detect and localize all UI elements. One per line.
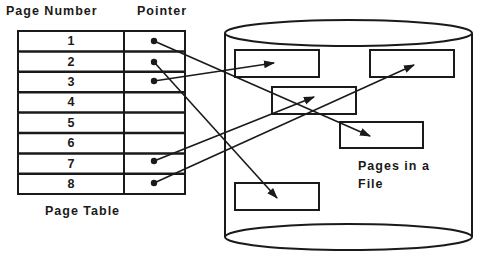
page-number-header: Page Number <box>6 4 98 18</box>
pointer-cell <box>124 51 185 71</box>
file-page-box <box>235 50 319 77</box>
pointer-header: Pointer <box>137 4 187 18</box>
pointer-arrow-1 <box>154 41 370 136</box>
page-number-cell: 3 <box>18 72 124 92</box>
cylinder-bottom <box>225 237 472 250</box>
file-page-box <box>235 183 319 210</box>
pointer-cell <box>124 72 185 92</box>
file-pages-caption: Pages in a File <box>358 157 430 193</box>
pointer-cell <box>124 31 185 51</box>
page-table: 1 2 3 4 5 6 7 8 <box>18 31 185 194</box>
table-row: 4 <box>18 92 185 112</box>
page-number-cell: 1 <box>18 31 124 51</box>
cylinder-top <box>225 20 472 46</box>
pointer-cell <box>124 153 185 173</box>
page-table-caption: Page Table <box>45 204 120 218</box>
table-row: 1 <box>18 31 185 51</box>
page-number-cell: 8 <box>18 174 124 194</box>
pointer-cell <box>124 113 185 133</box>
file-cylinder <box>225 20 472 250</box>
file-page-box <box>370 50 454 77</box>
table-row: 2 <box>18 51 185 71</box>
table-row: 7 <box>18 153 185 173</box>
page-number-cell: 4 <box>18 92 124 112</box>
pointer-cell <box>124 92 185 112</box>
pointer-cell <box>124 174 185 194</box>
file-page-box <box>340 122 423 148</box>
table-row: 3 <box>18 72 185 92</box>
table-row: 6 <box>18 133 185 153</box>
page-number-cell: 7 <box>18 153 124 173</box>
page-number-cell: 5 <box>18 113 124 133</box>
page-number-cell: 6 <box>18 133 124 153</box>
table-row: 8 <box>18 174 185 194</box>
pointer-cell <box>124 133 185 153</box>
page-number-cell: 2 <box>18 51 124 71</box>
table-row: 5 <box>18 113 185 133</box>
